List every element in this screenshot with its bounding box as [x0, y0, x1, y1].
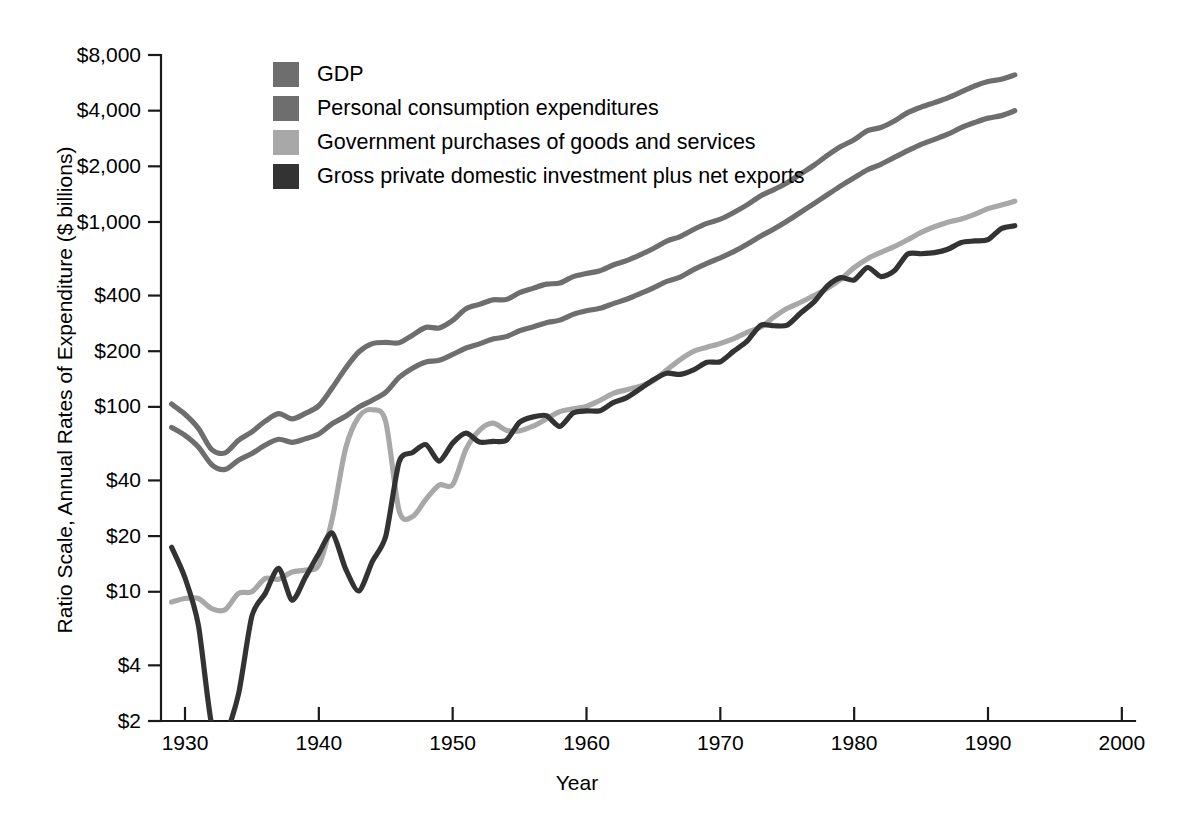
- series-line-3: [172, 201, 1015, 611]
- x-axis-ticks: 19301940195019601970198019902000: [162, 707, 1146, 754]
- x-axis-tick-label: 1990: [965, 731, 1012, 754]
- y-axis-tick-label: $100: [94, 394, 141, 417]
- y-axis-tick-label: $400: [94, 283, 141, 306]
- y-axis-title: Ratio Scale, Annual Rates of Expenditure…: [53, 147, 76, 634]
- x-axis-tick-label: 1950: [429, 731, 476, 754]
- legend-swatch-2: [273, 96, 299, 121]
- x-axis-tick-label: 1980: [831, 731, 878, 754]
- x-axis-tick-label: 1970: [697, 731, 744, 754]
- y-axis-tick-label: $1,000: [77, 210, 141, 233]
- x-axis-tick-label: 1960: [563, 731, 610, 754]
- series-line-4: [172, 226, 1015, 737]
- legend-label-1: GDP: [317, 62, 364, 86]
- y-axis-tick-label: $8,000: [77, 43, 141, 66]
- x-axis-tick-label: 2000: [1098, 731, 1145, 754]
- y-axis-ticks: $2$4$10$20$40$100$200$400$1,000$2,000$4,…: [77, 43, 161, 732]
- axis-frame: [161, 55, 1135, 721]
- x-axis-tick-label: 1940: [295, 731, 342, 754]
- x-axis-title: Year: [556, 771, 598, 794]
- x-axis-tick-label: 1930: [162, 731, 209, 754]
- legend-swatch-4: [273, 164, 299, 189]
- chart-svg: $2$4$10$20$40$100$200$400$1,000$2,000$4,…: [0, 0, 1191, 826]
- legend-label-2: Personal consumption expenditures: [317, 96, 659, 120]
- y-axis-tick-label: $4: [118, 653, 142, 676]
- legend-label-3: Government purchases of goods and servic…: [317, 130, 756, 154]
- legend-swatch-3: [273, 130, 299, 155]
- chart-legend: GDPPersonal consumption expendituresGove…: [273, 62, 805, 189]
- chart-figure: $2$4$10$20$40$100$200$400$1,000$2,000$4,…: [0, 0, 1191, 826]
- y-axis-tick-label: $10: [106, 579, 141, 602]
- y-axis-tick-label: $4,000: [77, 98, 141, 121]
- legend-swatch-1: [273, 62, 299, 87]
- legend-label-4: Gross private domestic investment plus n…: [317, 164, 805, 188]
- y-axis-tick-label: $40: [106, 468, 141, 491]
- y-axis-tick-label: $2,000: [77, 154, 141, 177]
- y-axis-tick-label: $2: [118, 709, 141, 732]
- y-axis-tick-label: $20: [106, 524, 141, 547]
- y-axis-tick-label: $200: [94, 339, 141, 362]
